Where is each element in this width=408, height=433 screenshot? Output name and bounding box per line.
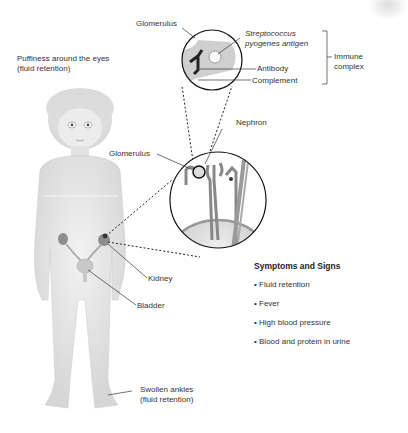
label-line: Streptococcus <box>245 29 308 39</box>
symptoms-panel: Symptoms and Signs • Fluid retention • F… <box>254 261 350 347</box>
label-antibody: Antibody <box>257 64 288 74</box>
label-bladder: Bladder <box>137 301 165 311</box>
label-complement: Complement <box>252 76 297 86</box>
label-immune-complex: Immune complex <box>334 52 364 72</box>
label-line: Puffiness around the eyes <box>17 54 109 64</box>
symptom-text: Fever <box>259 299 279 308</box>
symptom-item: • Blood and protein in urine <box>254 337 350 347</box>
label-glomerulus-top: Glomerulus <box>136 19 177 29</box>
symptom-item: • Fever <box>254 299 350 309</box>
glomerulus-magnified <box>182 30 242 90</box>
label-nephron: Nephron <box>236 118 267 128</box>
label-streptococcus: Streptococcus pyogenes antigen <box>245 29 308 49</box>
symptom-text: High blood pressure <box>259 318 331 327</box>
symptom-text: Blood and protein in urine <box>259 337 350 346</box>
label-line: Swollen ankles <box>140 385 193 395</box>
child-figure <box>34 88 125 408</box>
label-line: Immune <box>334 52 364 62</box>
label-puffiness: Puffiness around the eyes (fluid retenti… <box>17 54 109 74</box>
symptom-item: • Fluid retention <box>254 280 350 290</box>
symptom-text: Fluid retention <box>259 280 310 289</box>
label-line: complex <box>334 62 364 72</box>
label-kidney: Kidney <box>148 274 172 284</box>
label-swollen-ankles: Swollen ankles (fluid retention) <box>140 385 193 405</box>
label-glomerulus-mid: Glomerulus <box>109 149 150 159</box>
label-line: pyogenes antigen <box>245 39 308 49</box>
symptom-item: • High blood pressure <box>254 318 350 328</box>
symptoms-title: Symptoms and Signs <box>254 261 350 271</box>
label-line: (fluid retention) <box>140 395 193 405</box>
label-line: (fluid retention) <box>17 64 109 74</box>
